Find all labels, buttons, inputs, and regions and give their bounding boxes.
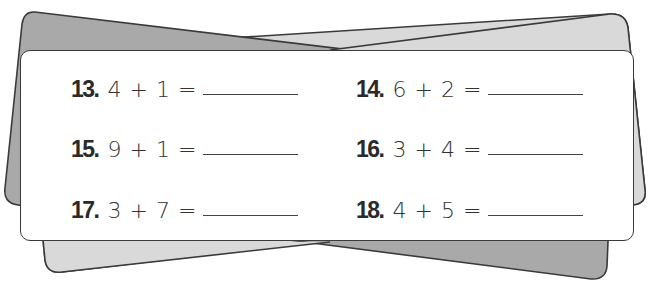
problem-16: 16. 3 + 4 =	[356, 136, 583, 166]
problem-18: 18. 4 + 5 =	[356, 197, 583, 227]
problem-expression: 6 + 2 =	[392, 77, 481, 102]
problem-number: 16.	[356, 136, 383, 163]
problem-expression: 3 + 7 =	[107, 198, 196, 223]
answer-blank[interactable]	[488, 154, 583, 155]
card-stack: 13. 4 + 1 = 14. 6 + 2 = 15. 9 + 1 = 16. …	[0, 0, 659, 288]
problem-14: 14. 6 + 2 =	[356, 76, 583, 106]
problem-number: 13.	[71, 76, 98, 103]
problem-15: 15. 9 + 1 =	[71, 136, 298, 166]
problem-number: 17.	[71, 197, 98, 224]
problem-number: 18.	[356, 197, 383, 224]
answer-blank[interactable]	[203, 215, 298, 216]
answer-blank[interactable]	[488, 94, 583, 95]
problem-expression: 9 + 1 =	[107, 137, 196, 162]
problem-13: 13. 4 + 1 =	[71, 76, 298, 106]
problem-number: 14.	[356, 76, 383, 103]
answer-blank[interactable]	[203, 154, 298, 155]
back-card-light-bottom	[42, 240, 330, 272]
problem-17: 17. 3 + 7 =	[71, 197, 298, 227]
problem-expression: 4 + 1 =	[107, 77, 196, 102]
answer-blank[interactable]	[203, 94, 298, 95]
answer-blank[interactable]	[488, 215, 583, 216]
problem-expression: 3 + 4 =	[392, 137, 481, 162]
problem-expression: 4 + 5 =	[392, 198, 481, 223]
problem-number: 15.	[71, 136, 98, 163]
